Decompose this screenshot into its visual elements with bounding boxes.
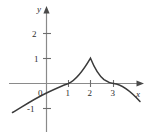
graph-figure: y x 2 1 -1 0 1 2 3 <box>0 0 152 137</box>
y-tick-label-minus-1: -1 <box>27 104 35 114</box>
x-axis-label: x <box>135 89 140 99</box>
y-axis <box>43 6 49 132</box>
x-axis <box>9 80 144 86</box>
y-axis-label: y <box>36 4 41 14</box>
x-tick-label-3: 3 <box>111 88 116 98</box>
x-tick-label-1: 1 <box>66 88 71 98</box>
y-tick-label-2: 2 <box>32 29 37 39</box>
x-tick-label-2: 2 <box>88 88 93 98</box>
y-tick-label-1: 1 <box>34 54 39 64</box>
x-tick-label-0: 0 <box>38 88 43 98</box>
